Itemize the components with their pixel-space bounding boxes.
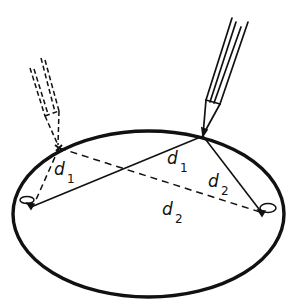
label-d1-right: d 1: [167, 148, 188, 175]
label-d1-left: d 1: [54, 159, 75, 186]
svg-text:d: d: [162, 199, 173, 219]
label-d2-right: d 2: [208, 171, 229, 198]
pencil-ghost-icon: [30, 58, 59, 145]
svg-text:1: 1: [180, 161, 188, 175]
ellipse-construction-diagram: d 1 d 1 d 2 d 2: [0, 0, 292, 305]
svg-text:1: 1: [67, 172, 75, 186]
svg-text:2: 2: [175, 212, 183, 226]
svg-text:d: d: [167, 148, 178, 168]
svg-text:d: d: [208, 171, 219, 191]
svg-text:2: 2: [221, 184, 229, 198]
string-d2-dashed: [59, 148, 260, 212]
ellipse-outline: [13, 131, 284, 297]
pencil-icon: [202, 18, 248, 136]
svg-text:d: d: [54, 159, 65, 179]
pin-icon: [20, 197, 34, 210]
pin-icon: [258, 204, 276, 217]
label-d2-bottom: d 2: [162, 199, 183, 226]
